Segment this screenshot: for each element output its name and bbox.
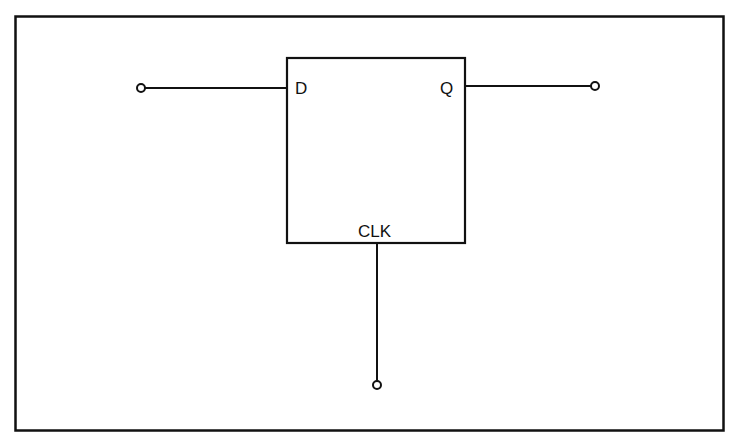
q-output-terminal-icon	[591, 82, 599, 90]
q-label: Q	[440, 79, 453, 98]
flip-flop-block	[287, 58, 465, 243]
d-input-wire	[137, 84, 287, 92]
q-output-wire	[465, 82, 599, 90]
d-input-terminal-icon	[137, 84, 145, 92]
flip-flop-diagram: D Q CLK	[0, 0, 733, 444]
d-label: D	[295, 79, 307, 98]
clk-label: CLK	[358, 222, 392, 241]
clk-input-terminal-icon	[373, 381, 381, 389]
clk-input-wire	[373, 243, 381, 389]
